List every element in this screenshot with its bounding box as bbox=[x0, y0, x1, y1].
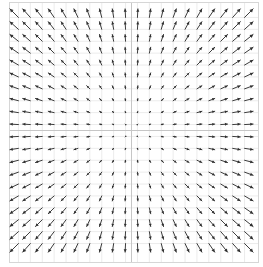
figure bbox=[0, 0, 263, 267]
quiver-plot bbox=[0, 0, 263, 267]
